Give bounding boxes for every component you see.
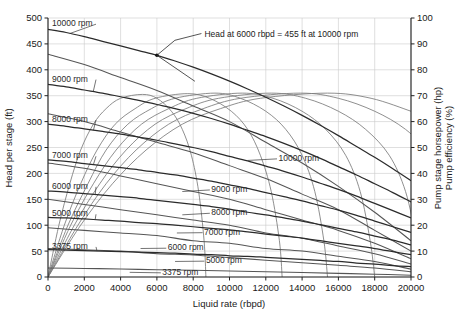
y-tick-label-right: 50 <box>417 142 428 153</box>
horsepower-curve-label: 8000 rpm <box>211 207 247 217</box>
y-tick-label-left: 100 <box>26 220 42 231</box>
horsepower-curve-label: 7000 rpm <box>204 227 240 237</box>
head-curve-label: 9000 rpm <box>52 74 88 84</box>
y-tick-label-right: 100 <box>417 12 433 23</box>
y-tick-label-right: 80 <box>417 64 428 75</box>
horsepower-curve-label: 6000 rpm <box>168 242 204 252</box>
y-tick-label-right: 0 <box>417 271 422 282</box>
head-curve-label: 6000 rpm <box>52 181 88 191</box>
y-tick-label-left: 500 <box>26 12 42 23</box>
x-tick-label: 8000 <box>183 282 204 293</box>
y-tick-label-left: 350 <box>26 90 42 101</box>
y-tick-label-left: 450 <box>26 38 42 49</box>
y-axis-title-right-efficiency: Pump efficiency (%) <box>443 106 454 190</box>
horsepower-curve-label: 3375 rpm <box>162 267 198 277</box>
x-tick-label: 4000 <box>110 282 131 293</box>
y-tick-label-left: 300 <box>26 116 42 127</box>
x-tick-label: 0 <box>45 282 50 293</box>
y-tick-label-right: 30 <box>417 194 428 205</box>
annotation-text: Head at 6000 rbpd = 455 ft at 10000 rpm <box>204 29 358 39</box>
y-tick-label-left: 0 <box>37 271 42 282</box>
y-tick-label-left: 200 <box>26 168 42 179</box>
y-axis-title-right-horsepower: Pump stage horsepower (hp) <box>432 87 443 210</box>
pump-performance-chart: 0200040006000800010000120001400016000180… <box>0 0 461 317</box>
x-axis-title: Liquid rate (rbpd) <box>193 298 265 309</box>
y-tick-label-right: 70 <box>417 90 428 101</box>
x-tick-label: 18000 <box>361 282 387 293</box>
gridlines <box>48 18 411 277</box>
y-tick-label-right: 40 <box>417 168 428 179</box>
chart-canvas: 0200040006000800010000120001400016000180… <box>0 0 461 317</box>
x-tick-label: 20000 <box>398 282 424 293</box>
head-curve-label: 7000 rpm <box>52 150 88 160</box>
head-curve-label: 3375 rpm <box>52 241 88 251</box>
x-tick-label: 2000 <box>74 282 95 293</box>
x-tick-label: 16000 <box>325 282 351 293</box>
head-curve-label: 10000 rpm <box>52 18 93 28</box>
horsepower-curve-label: 10000 rpm <box>279 153 320 163</box>
y-tick-label-right: 60 <box>417 116 428 127</box>
y-tick-label-right: 90 <box>417 38 428 49</box>
x-tick-label: 14000 <box>289 282 315 293</box>
y-tick-label-right: 20 <box>417 220 428 231</box>
head-curve-label: 8000 rpm <box>52 114 88 124</box>
x-tick-label: 12000 <box>253 282 279 293</box>
head-curve-label: 5000 rpm <box>52 208 88 218</box>
y-axis-title-left: Head per stage (ft) <box>3 108 14 187</box>
horsepower-curve-label: 5000 rpm <box>206 255 242 265</box>
y-tick-label-left: 250 <box>26 142 42 153</box>
annotation: Head at 6000 rbpd = 455 ft at 10000 rpm <box>155 29 358 82</box>
y-tick-label-left: 400 <box>26 64 42 75</box>
horsepower-curve-label: 9000 rpm <box>211 184 247 194</box>
y-tick-label-left: 50 <box>31 246 42 257</box>
x-tick-label: 10000 <box>216 282 242 293</box>
x-tick-label: 6000 <box>146 282 167 293</box>
y-tick-label-right: 10 <box>417 246 428 257</box>
y-tick-label-left: 150 <box>26 194 42 205</box>
